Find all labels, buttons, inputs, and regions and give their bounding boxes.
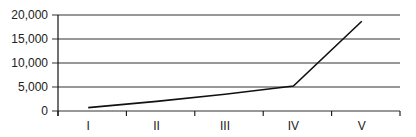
y-tick-label: 0 [41,104,48,118]
x-axis: IIIIIIIVV [58,111,400,133]
line-chart: 05,00010,00015,00020,000 IIIIIIIVV [0,0,416,137]
x-tick-label: V [358,119,366,133]
y-tick-label: 5,000 [18,80,48,94]
x-tick-label: IV [288,119,299,133]
gridlines [52,15,400,111]
y-tick-label: 15,000 [11,32,48,46]
x-tick-label: I [87,119,90,133]
x-tick-label: II [153,119,160,133]
y-tick-label: 10,000 [11,56,48,70]
y-tick-label: 20,000 [11,8,48,22]
data-line [88,21,362,107]
y-axis: 05,00010,00015,00020,000 [11,8,58,118]
x-tick-label: III [220,119,230,133]
